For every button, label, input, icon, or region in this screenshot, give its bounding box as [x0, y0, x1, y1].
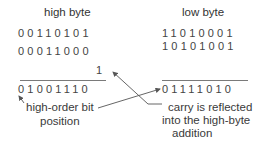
high-order-to-low-result-arrow — [98, 89, 160, 108]
carry-arrow — [113, 72, 162, 104]
high-order-arrow — [19, 96, 24, 103]
arrows-layer — [0, 0, 264, 154]
